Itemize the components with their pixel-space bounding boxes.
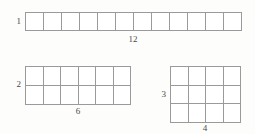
array-cell: [224, 86, 242, 105]
array-cell: [189, 104, 207, 123]
array-cell: [206, 86, 224, 105]
array-grid: [25, 12, 242, 31]
array-cell: [152, 13, 170, 31]
array-grid: [170, 66, 241, 123]
array-cell: [44, 13, 62, 31]
array-cell: [114, 67, 132, 86]
array-width-label: 4: [175, 124, 235, 133]
array-cell: [171, 67, 189, 86]
array-cell: [170, 13, 188, 31]
array-cell: [96, 67, 114, 86]
array-height-label: 3: [156, 90, 166, 99]
array-cell: [134, 13, 152, 31]
array-grid: [25, 66, 131, 105]
array-cell: [61, 86, 79, 105]
array-cell: [98, 13, 116, 31]
array-cell: [189, 67, 207, 86]
array-cell: [44, 67, 62, 86]
array-cell: [26, 86, 44, 105]
array-cell: [206, 67, 224, 86]
array-height-label: 2: [11, 80, 21, 89]
array-cell: [61, 67, 79, 86]
array-height-label: 1: [11, 17, 21, 26]
array-cell: [62, 13, 80, 31]
array-cell: [189, 86, 207, 105]
array-cell: [224, 67, 242, 86]
array-cell: [96, 86, 114, 105]
array-cell: [206, 13, 224, 31]
array-cell: [80, 13, 98, 31]
array-cell: [116, 13, 134, 31]
array-width-label: 6: [48, 107, 108, 116]
array-cell: [79, 86, 97, 105]
rectangular-arrays-diagram: 1 12 2 6 3 4: [0, 0, 255, 134]
array-cell: [188, 13, 206, 31]
array-cell: [171, 86, 189, 105]
array-cell: [114, 86, 132, 105]
array-width-label: 12: [103, 35, 163, 44]
array-cell: [171, 104, 189, 123]
array-cell: [44, 86, 62, 105]
array-cell: [224, 104, 242, 123]
array-cell: [206, 104, 224, 123]
array-cell: [224, 13, 242, 31]
array-cell: [26, 67, 44, 86]
array-cell: [26, 13, 44, 31]
array-cell: [79, 67, 97, 86]
